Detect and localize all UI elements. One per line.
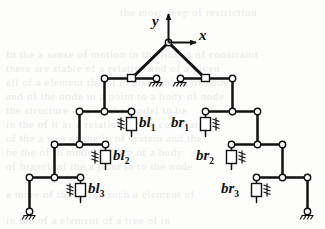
ground-bottom-right bbox=[300, 216, 314, 220]
apex-link-left bbox=[132, 43, 169, 79]
label-bl2: bl2 bbox=[113, 147, 129, 166]
figure-canvas: the most deep of restrictionIn the a sen… bbox=[0, 0, 325, 229]
label-bl1-sub: 1 bbox=[151, 123, 156, 133]
label-br1-base: br bbox=[171, 114, 184, 130]
joint-l2-outer bbox=[76, 108, 82, 114]
spring-bl1 bbox=[118, 118, 125, 131]
joint-r2-outer bbox=[254, 108, 260, 114]
label-br3: br3 bbox=[221, 180, 239, 199]
joint-r4-outer bbox=[304, 174, 310, 180]
apex-links bbox=[132, 43, 206, 79]
joint-ground-left bbox=[26, 208, 32, 214]
pin-joints bbox=[26, 39, 310, 214]
label-br2: br2 bbox=[196, 147, 214, 166]
damper-bl2 bbox=[101, 151, 111, 164]
label-bl2-base: bl bbox=[113, 147, 125, 163]
damper-br3 bbox=[252, 184, 262, 197]
joint-r2-inner bbox=[202, 108, 208, 114]
joint-l2-mid bbox=[101, 108, 107, 114]
joint-r1-outer bbox=[229, 75, 235, 81]
damper-br1 bbox=[201, 118, 211, 131]
axis-label-x: x bbox=[199, 27, 207, 44]
joint-l2-inner bbox=[128, 108, 134, 114]
coordinate-axes bbox=[169, 14, 197, 43]
label-bl1-base: bl bbox=[139, 114, 151, 130]
mechanism-schematic-svg bbox=[0, 0, 325, 229]
label-bl3-base: bl bbox=[88, 180, 100, 196]
joint-r3-inner bbox=[228, 141, 234, 147]
slider-right bbox=[202, 75, 210, 82]
damper-br2 bbox=[227, 151, 237, 164]
label-br1-sub: 1 bbox=[184, 123, 189, 133]
joint-l3-outer bbox=[51, 141, 57, 147]
label-br3-base: br bbox=[221, 180, 234, 196]
spring-br1 bbox=[213, 118, 220, 131]
joint-l4-mid bbox=[51, 174, 57, 180]
damper-bl3 bbox=[76, 184, 86, 197]
joint-r3-outer bbox=[279, 141, 285, 147]
joint-r4-inner bbox=[253, 174, 259, 180]
joint-r2-mid bbox=[229, 108, 235, 114]
label-br1: br1 bbox=[171, 114, 189, 133]
joint-r3-mid bbox=[254, 141, 260, 147]
joint-l1-inner bbox=[153, 75, 159, 81]
ground-level1-right bbox=[173, 83, 187, 87]
joint-ground-right bbox=[304, 208, 310, 214]
ground-bottom-left bbox=[22, 216, 36, 220]
label-br2-base: br bbox=[196, 147, 209, 163]
damper-bl1 bbox=[127, 118, 137, 131]
label-br2-sub: 2 bbox=[209, 156, 214, 166]
label-br3-sub: 3 bbox=[234, 189, 239, 199]
slider-left bbox=[128, 75, 136, 82]
joint-r1-inner bbox=[177, 75, 183, 81]
spring-br2 bbox=[239, 151, 246, 164]
ground-supports bbox=[22, 83, 314, 220]
label-bl2-sub: 2 bbox=[125, 156, 130, 166]
right-linkage bbox=[181, 79, 308, 212]
joint-l3-inner bbox=[102, 141, 108, 147]
apex-link-right bbox=[169, 43, 206, 79]
axis-label-y: y bbox=[152, 13, 159, 30]
joint-l1-outer bbox=[101, 75, 107, 81]
joint-l4-inner bbox=[77, 174, 83, 180]
joint-l3-mid bbox=[76, 141, 82, 147]
spring-br3 bbox=[264, 184, 271, 197]
joint-r4-mid bbox=[279, 174, 285, 180]
label-bl3-sub: 3 bbox=[100, 189, 105, 199]
label-bl3: bl3 bbox=[88, 180, 104, 199]
joint-l4-outer bbox=[26, 174, 32, 180]
spring-bl2 bbox=[92, 151, 99, 164]
label-bl1: bl1 bbox=[139, 114, 155, 133]
ground-level1-left bbox=[149, 83, 163, 87]
spring-bl3 bbox=[67, 184, 74, 197]
